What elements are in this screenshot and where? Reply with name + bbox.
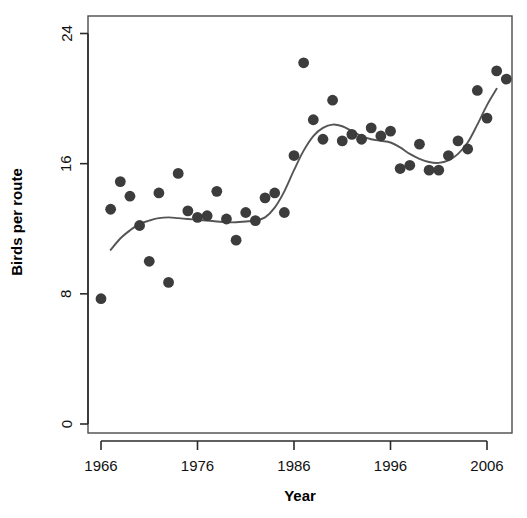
data-point bbox=[105, 204, 116, 215]
data-point bbox=[279, 207, 290, 218]
y-axis-title: Birds per route bbox=[8, 168, 25, 276]
data-point bbox=[298, 57, 309, 68]
data-point bbox=[356, 134, 367, 145]
data-point bbox=[453, 135, 464, 146]
data-point bbox=[472, 85, 483, 96]
data-point bbox=[240, 207, 251, 218]
x-axis-title: Year bbox=[284, 487, 316, 504]
x-tick-label: 1986 bbox=[277, 457, 310, 474]
data-point bbox=[202, 210, 213, 221]
x-tick-label: 1966 bbox=[84, 457, 117, 474]
data-point bbox=[115, 176, 126, 187]
data-point bbox=[192, 212, 203, 223]
data-point bbox=[375, 131, 386, 142]
data-point bbox=[337, 135, 348, 146]
data-point bbox=[491, 66, 502, 77]
y-tick-label: 0 bbox=[58, 420, 75, 428]
data-point bbox=[501, 74, 512, 85]
data-point bbox=[347, 129, 358, 140]
data-point bbox=[250, 215, 261, 226]
data-point bbox=[154, 188, 165, 199]
data-point bbox=[327, 95, 338, 106]
x-tick-label: 2006 bbox=[470, 457, 503, 474]
y-tick-label: 16 bbox=[58, 155, 75, 172]
data-point bbox=[433, 165, 444, 176]
data-point bbox=[173, 168, 184, 179]
data-point bbox=[134, 220, 145, 231]
chart-figure: 081624 Birds per route 19661976198619962… bbox=[0, 0, 527, 518]
data-point bbox=[211, 186, 222, 197]
data-point bbox=[366, 122, 377, 133]
data-point bbox=[395, 163, 406, 174]
data-point bbox=[414, 139, 425, 150]
data-point bbox=[424, 165, 435, 176]
data-point bbox=[385, 126, 396, 137]
data-point bbox=[96, 293, 107, 304]
data-point bbox=[443, 150, 454, 161]
y-tick-label: 24 bbox=[58, 25, 75, 42]
data-point bbox=[182, 205, 193, 216]
data-point bbox=[221, 214, 232, 225]
data-point bbox=[462, 144, 473, 155]
data-point bbox=[125, 191, 136, 202]
data-point bbox=[289, 150, 300, 161]
x-tick-label: 1976 bbox=[181, 457, 214, 474]
data-point bbox=[404, 160, 415, 171]
data-point bbox=[482, 113, 493, 124]
data-point bbox=[269, 188, 280, 199]
data-point bbox=[163, 277, 174, 288]
x-tick-label: 1996 bbox=[374, 457, 407, 474]
data-point bbox=[231, 235, 242, 246]
data-point bbox=[260, 192, 271, 203]
data-point bbox=[308, 114, 319, 125]
data-point bbox=[318, 134, 329, 145]
y-tick-label: 8 bbox=[58, 290, 75, 298]
data-point bbox=[144, 256, 155, 267]
